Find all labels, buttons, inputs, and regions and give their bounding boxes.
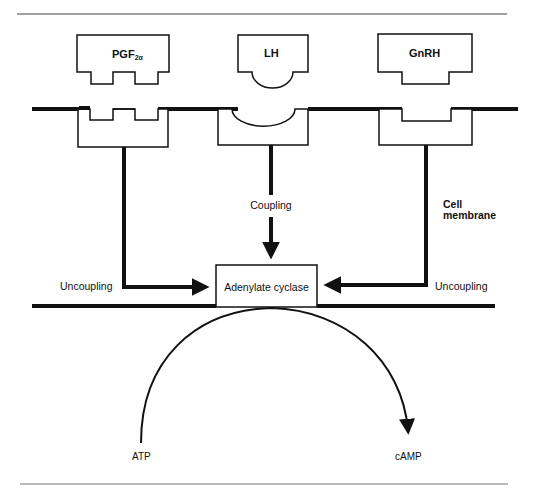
receptor-pgf2a bbox=[78, 109, 168, 147]
uncoupling-arrow-left bbox=[124, 147, 206, 287]
adenylate-cyclase-label: Adenylate cyclase bbox=[224, 281, 309, 293]
svg-text:membrane: membrane bbox=[443, 209, 496, 221]
ligand-lh-label: LH bbox=[264, 47, 279, 59]
ligand-pgf2a: PGF2α bbox=[77, 35, 169, 84]
ligand-gnrh: GnRH bbox=[378, 34, 472, 84]
atp-to-camp-arc bbox=[141, 308, 408, 443]
ligand-gnrh-label: GnRH bbox=[409, 47, 440, 59]
uncoupling-arrow-right bbox=[327, 145, 426, 285]
ligand-lh: LH bbox=[238, 35, 308, 88]
adenylate-cyclase-box: Adenylate cyclase bbox=[216, 265, 317, 307]
atp-label: ATP bbox=[132, 451, 151, 462]
coupling-label: Coupling bbox=[250, 199, 292, 211]
uncoupling-label-left: Uncoupling bbox=[60, 280, 113, 292]
receptor-lh bbox=[218, 109, 308, 145]
camp-label: cAMP bbox=[395, 451, 422, 462]
cell-membrane-label: Cell membrane bbox=[443, 198, 496, 221]
hormone-receptor-diagram: PGF2α LH GnRH Adenylate cyclase Co bbox=[0, 0, 547, 501]
receptor-gnrh bbox=[379, 109, 472, 145]
uncoupling-label-right: Uncoupling bbox=[435, 280, 488, 292]
